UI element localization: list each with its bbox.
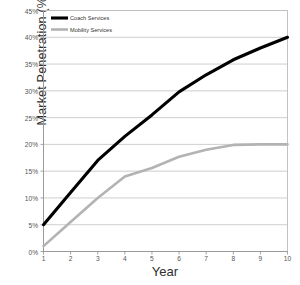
plot-area: Coach ServicesMobility Services <box>0 0 300 285</box>
series-line-coach-services <box>44 37 288 224</box>
plot-border <box>44 11 288 252</box>
series-line-mobility-services <box>44 144 288 246</box>
legend-label-0: Coach Services <box>70 15 109 21</box>
market-penetration-line-chart: Market Penetration (%) 0%5%10%15%20%25%3… <box>0 0 300 285</box>
legend-label-1: Mobility Services <box>70 27 112 33</box>
x-axis-title: Year <box>43 264 287 279</box>
